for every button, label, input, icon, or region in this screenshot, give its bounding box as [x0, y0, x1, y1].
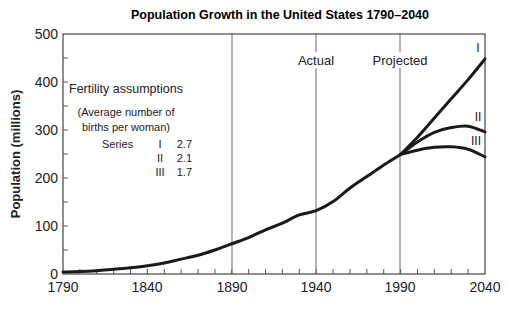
plot-frame [63, 34, 485, 274]
legend-header: Series [102, 138, 134, 150]
svg-text:500: 500 [35, 26, 59, 42]
svg-text:I: I [476, 41, 479, 55]
svg-text:300: 300 [35, 122, 59, 138]
y-axis-title: Population (millions) [8, 90, 23, 219]
legend-subtitle: births per woman) [82, 121, 170, 133]
svg-text:400: 400 [35, 74, 59, 90]
svg-text:I: I [158, 138, 161, 150]
svg-text:III: III [155, 166, 164, 178]
legend: Fertility assumptions (Average number of… [69, 82, 192, 178]
svg-text:2.1: 2.1 [177, 152, 192, 164]
y-axis-labels: 0 100 200 300 400 500 [35, 26, 59, 282]
svg-text:1.7: 1.7 [177, 166, 192, 178]
svg-text:2040: 2040 [469, 279, 500, 295]
series-end-labels: I II III [471, 41, 481, 148]
vertical-gridlines [232, 34, 400, 274]
svg-text:II: II [157, 152, 163, 164]
population-chart: Population Growth in the United States 1… [0, 0, 509, 314]
svg-text:1790: 1790 [47, 279, 78, 295]
svg-text:1940: 1940 [300, 279, 331, 295]
svg-text:1890: 1890 [216, 279, 247, 295]
svg-text:II: II [475, 110, 482, 124]
series-line-iii [401, 147, 485, 157]
svg-text:III: III [471, 134, 481, 148]
annotation-projected: Projected [373, 53, 428, 68]
svg-text:1840: 1840 [131, 279, 162, 295]
x-axis-labels: 1790 1840 1890 1940 1990 2040 [47, 279, 500, 295]
y-axis-ticks [63, 58, 68, 250]
x-axis-ticks [80, 269, 468, 274]
svg-text:100: 100 [35, 218, 59, 234]
svg-text:2.7: 2.7 [177, 138, 192, 150]
chart-title: Population Growth in the United States 1… [131, 8, 429, 22]
annotation-actual: Actual [298, 53, 334, 68]
svg-text:200: 200 [35, 170, 59, 186]
legend-title: Fertility assumptions [69, 82, 183, 96]
legend-subtitle: (Average number of [77, 106, 175, 118]
svg-text:1990: 1990 [384, 279, 415, 295]
